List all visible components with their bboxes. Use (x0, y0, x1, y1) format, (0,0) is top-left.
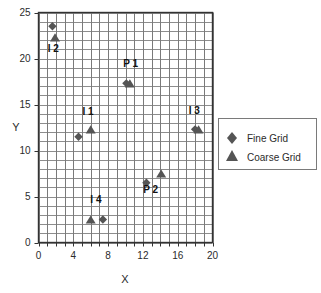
grid-minor-lines (39, 13, 214, 244)
data-point-label: P 2 (143, 184, 158, 195)
x-tick-label: 12 (137, 250, 149, 261)
marker-diamond-fine-grid (74, 133, 82, 141)
y-tick-label: 25 (19, 7, 31, 18)
legend-label-coarse-grid: Coarse Grid (247, 152, 301, 163)
scatter-chart: 048121620 0510152025 I 2P 1I 1I 3P 2I 4 … (0, 0, 321, 293)
marker-triangle-coarse-grid (156, 169, 166, 177)
data-point-markers (48, 22, 203, 224)
y-tick-label: 5 (25, 191, 31, 202)
y-axis-tick-labels: 0510152025 (19, 7, 31, 248)
marker-triangle-coarse-grid (50, 33, 60, 41)
legend-label-fine-grid: Fine Grid (247, 133, 288, 144)
y-tick-label: 0 (25, 237, 31, 248)
x-tick-label: 16 (172, 250, 184, 261)
marker-diamond-fine-grid (48, 22, 56, 30)
x-tick-label: 20 (207, 250, 219, 261)
marker-triangle-coarse-grid (86, 125, 96, 133)
data-point-label: I 2 (48, 43, 60, 54)
data-point-label: I 3 (189, 105, 201, 116)
data-point-label: P 1 (123, 58, 138, 69)
y-tick-label: 15 (19, 99, 31, 110)
y-tick-label: 20 (19, 53, 31, 64)
x-axis-tick-labels: 048121620 (36, 250, 219, 261)
data-point-label: I 1 (83, 106, 95, 117)
plot-svg: 048121620 0510152025 I 2P 1I 1I 3P 2I 4 … (0, 0, 321, 293)
data-point-label: I 4 (90, 194, 102, 205)
x-tick-label: 0 (36, 250, 42, 261)
x-tick-label: 4 (71, 250, 77, 261)
y-axis-title: Y (12, 121, 20, 133)
y-tick-label: 10 (19, 145, 31, 156)
x-tick-label: 8 (105, 250, 111, 261)
legend: Fine Grid Coarse Grid (219, 119, 317, 170)
marker-triangle-coarse-grid (86, 215, 96, 223)
x-axis-title: X (121, 273, 129, 285)
